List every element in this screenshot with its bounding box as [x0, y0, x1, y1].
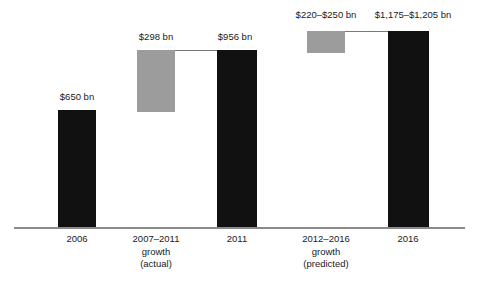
x-tick-label-2007-2011-growth-line3: (actual)	[113, 258, 199, 271]
x-tick-label-2011-line1: 2011	[194, 233, 280, 246]
plot-area: $650 bn $298 bn $956 bn $220–$250 bn $1,…	[0, 0, 478, 290]
value-label-2006: $650 bn	[34, 91, 120, 103]
value-label-2016: $1,175–$1,205 bn	[353, 9, 473, 21]
bar-2012-2016-growth[interactable]	[307, 31, 345, 53]
x-tick-label-2012-2016-growth-line3: (predicted)	[283, 258, 369, 271]
x-tick-label-2012-2016-growth-line2: growth	[283, 246, 369, 259]
waterfall-chart: $650 bn $298 bn $956 bn $220–$250 bn $1,…	[0, 0, 478, 290]
x-tick-label-2016: 2016	[365, 233, 451, 246]
x-tick-label-2011: 2011	[194, 233, 280, 246]
value-label-2007-2011-growth: $298 bn	[113, 31, 199, 43]
x-tick-label-2012-2016-growth: 2012–2016 growth (predicted)	[283, 233, 369, 271]
bar-2011[interactable]	[217, 50, 257, 228]
x-tick-label-2007-2011-growth-line2: growth	[113, 246, 199, 259]
bar-2006[interactable]	[58, 110, 96, 228]
value-label-2011: $956 bn	[192, 31, 278, 43]
x-tick-label-2006: 2006	[34, 233, 120, 246]
x-tick-label-2007-2011-growth-line1: 2007–2011	[113, 233, 199, 246]
bar-2016[interactable]	[388, 31, 429, 228]
x-axis-line	[14, 227, 465, 229]
bar-2007-2011-growth[interactable]	[137, 50, 175, 112]
x-tick-label-2006-line1: 2006	[34, 233, 120, 246]
x-tick-label-2016-line1: 2016	[365, 233, 451, 246]
x-tick-label-2012-2016-growth-line1: 2012–2016	[283, 233, 369, 246]
x-tick-label-2007-2011-growth: 2007–2011 growth (actual)	[113, 233, 199, 271]
